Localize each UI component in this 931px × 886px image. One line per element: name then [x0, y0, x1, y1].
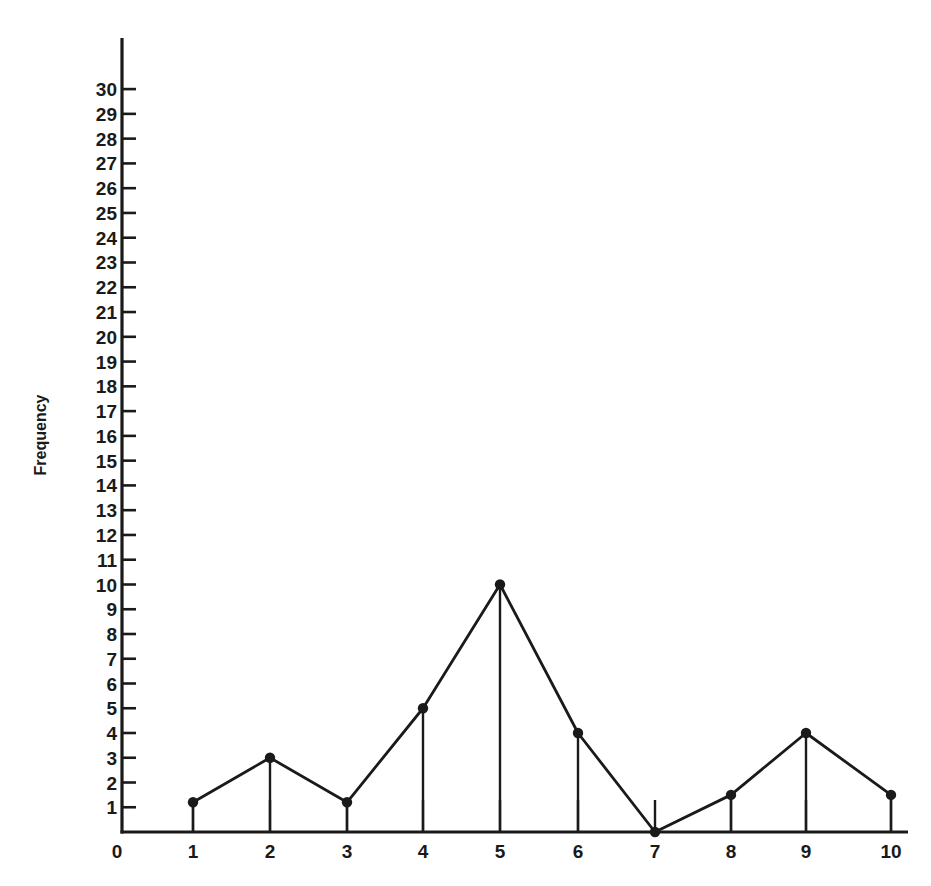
data-point-marker	[801, 728, 811, 738]
x-tick-label: 7	[650, 841, 661, 862]
x-tick-label: 3	[342, 841, 353, 862]
y-tick-label: 25	[96, 203, 118, 224]
y-tick-label: 16	[96, 426, 117, 447]
y-tick-label: 8	[106, 624, 117, 645]
y-tick-label: 27	[96, 153, 117, 174]
y-tick-label: 19	[96, 352, 117, 373]
data-series	[188, 579, 896, 837]
y-tick-label: 14	[96, 475, 118, 496]
y-tick-label: 18	[96, 376, 117, 397]
y-tick-label: 20	[96, 327, 117, 348]
y-tick-label: 3	[106, 748, 117, 769]
x-tick-label: 10	[880, 841, 901, 862]
data-point-marker	[418, 703, 428, 713]
y-tick-label: 6	[106, 674, 117, 695]
y-tick-label: 17	[96, 401, 117, 422]
y-tick-label: 29	[96, 104, 117, 125]
y-tick-label: 9	[106, 599, 117, 620]
y-tick-label: 15	[96, 451, 118, 472]
x-tick-label: 5	[495, 841, 506, 862]
data-point-marker	[188, 797, 198, 807]
y-axis: 1234567891011121314151617181920212223242…	[96, 38, 136, 834]
data-point-marker	[495, 579, 505, 589]
data-point-marker	[265, 753, 275, 763]
data-point-marker	[726, 790, 736, 800]
y-tick-label: 24	[96, 228, 118, 249]
y-tick-label: 10	[96, 575, 117, 596]
data-point-marker	[650, 827, 660, 837]
y-tick-label: 5	[106, 698, 117, 719]
y-tick-label: 28	[96, 129, 117, 150]
y-tick-label: 12	[96, 525, 117, 546]
data-point-marker	[573, 728, 583, 738]
y-tick-label: 21	[96, 302, 118, 323]
data-point-marker	[886, 790, 896, 800]
x-tick-label: 6	[573, 841, 584, 862]
x-tick-label: 4	[418, 841, 429, 862]
y-tick-label: 4	[106, 723, 117, 744]
y-tick-label: 13	[96, 500, 117, 521]
y-tick-label: 23	[96, 252, 117, 273]
series-line	[193, 585, 891, 833]
y-tick-label: 2	[106, 773, 117, 794]
y-axis-title: Frequency	[32, 394, 49, 475]
x-tick-label: 9	[801, 841, 812, 862]
x-tick-label: 0	[112, 841, 123, 862]
y-tick-label: 11	[97, 550, 118, 571]
y-tick-label: 22	[96, 277, 117, 298]
y-tick-label: 1	[106, 797, 117, 818]
x-tick-label: 2	[265, 841, 276, 862]
x-tick-label: 1	[188, 841, 199, 862]
y-tick-label: 30	[96, 79, 117, 100]
data-point-marker	[342, 797, 352, 807]
x-tick-label: 8	[726, 841, 737, 862]
x-axis: 012345678910	[112, 800, 908, 862]
frequency-polygon-chart: 1234567891011121314151617181920212223242…	[0, 0, 931, 886]
y-tick-label: 26	[96, 178, 117, 199]
y-tick-label: 7	[106, 649, 117, 670]
